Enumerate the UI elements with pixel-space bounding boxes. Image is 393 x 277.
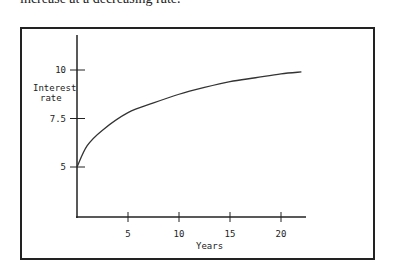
x-tick-label: 10 [174, 229, 185, 239]
y-tick-label: 5 [61, 162, 66, 172]
line-chart: 510152057.510 Interest rate Years [0, 0, 393, 277]
x-tick-label: 20 [276, 229, 287, 239]
ticks: 510152057.510 [50, 65, 287, 239]
interest-rate-curve [77, 72, 301, 167]
y-axis-label-line1: Interest [33, 83, 76, 93]
axes [76, 35, 306, 218]
y-tick-label: 10 [55, 65, 66, 75]
y-axis-label-line2: rate [40, 93, 62, 103]
x-tick-label: 15 [225, 229, 236, 239]
y-tick-label: 7.5 [50, 114, 66, 124]
x-tick-label: 5 [125, 229, 130, 239]
x-axis-label: Years [196, 241, 223, 251]
